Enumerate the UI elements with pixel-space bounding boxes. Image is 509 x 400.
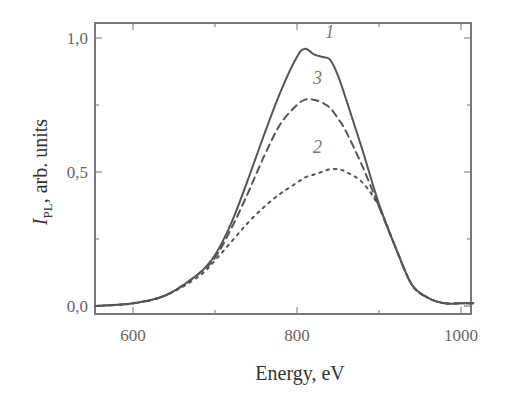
x-axis-title: Energy, eV bbox=[255, 362, 345, 385]
y-tick-label: 0,0 bbox=[67, 297, 88, 316]
pl-spectrum-chart: 60080010000,00,51,0 132 Energy, eV IPL, … bbox=[0, 0, 509, 400]
y-axis-title: IPL, arb. units bbox=[29, 119, 55, 226]
curve-1 bbox=[96, 49, 473, 306]
x-tick-label: 1000 bbox=[444, 326, 478, 345]
curves bbox=[96, 49, 473, 306]
curve-3 bbox=[96, 99, 473, 306]
x-tick-label: 600 bbox=[120, 326, 146, 345]
curve-labels: 132 bbox=[312, 22, 334, 157]
y-tick-label: 1,0 bbox=[67, 29, 88, 48]
y-tick-label: 0,5 bbox=[67, 163, 88, 182]
svg-text:IPL, arb. units: IPL, arb. units bbox=[29, 119, 55, 226]
curve-label-2: 2 bbox=[313, 137, 322, 157]
axis-ticks bbox=[95, 23, 471, 314]
x-tick-label: 800 bbox=[284, 326, 310, 345]
tick-labels: 60080010000,00,51,0 bbox=[67, 29, 478, 345]
plot-frame bbox=[95, 23, 471, 314]
y-axis-title-sub: PL bbox=[40, 203, 55, 218]
curve-label-3: 3 bbox=[312, 68, 322, 88]
y-axis-title-rest: , arb. units bbox=[29, 119, 51, 204]
curve-2 bbox=[96, 169, 473, 306]
curve-label-1: 1 bbox=[325, 22, 334, 42]
